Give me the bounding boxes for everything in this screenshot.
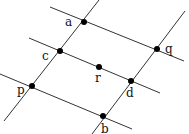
point-label-q: q (165, 42, 173, 56)
point-label-r: r (95, 71, 101, 85)
point-p (29, 83, 35, 89)
diagram-canvas: aqcrdpb (0, 0, 189, 134)
point-d (128, 78, 134, 84)
point-label-c: c (42, 49, 49, 63)
point-label-d: d (126, 86, 134, 100)
point-b (100, 113, 106, 119)
point-r (96, 64, 102, 70)
point-label-a: a (65, 15, 72, 29)
point-a (81, 19, 87, 25)
point-label-b: b (101, 122, 109, 134)
point-q (154, 46, 160, 52)
parallelogram-grid-diagram: aqcrdpb (0, 0, 189, 134)
point-label-p: p (17, 83, 25, 97)
line-acp (4, 0, 99, 121)
point-c (57, 48, 63, 54)
